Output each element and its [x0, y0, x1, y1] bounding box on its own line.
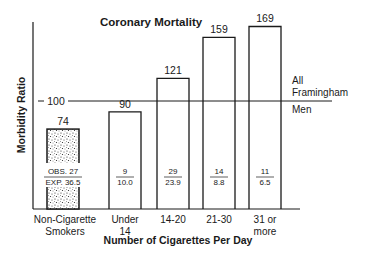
- chart-root: Coronary Mortality Morbidity Ratio Numbe…: [0, 0, 367, 255]
- observed-count: 9: [123, 167, 128, 176]
- expected-count: 10.0: [117, 178, 133, 187]
- category-label: 21-30: [206, 214, 232, 225]
- category-label: more: [254, 226, 277, 237]
- reference-annotation: Framingham: [292, 87, 348, 98]
- expected-count: 8.8: [213, 178, 225, 187]
- expected-count: 6.5: [259, 178, 271, 187]
- bar: [109, 112, 141, 209]
- bar-value-label: 90: [119, 98, 131, 110]
- observed-count: 11: [261, 167, 270, 176]
- reference-annotation: All: [292, 75, 303, 86]
- expected-count: 23.9: [165, 178, 181, 187]
- category-label: 31 or: [254, 214, 277, 225]
- y-axis-label: Morbidity Ratio: [15, 77, 27, 153]
- category-label: 14: [119, 226, 131, 237]
- expected-count: EXP. 36.5: [46, 178, 82, 187]
- category-label: Under: [111, 214, 139, 225]
- reference-value-label: 100: [47, 95, 65, 107]
- observed-count: 14: [215, 167, 224, 176]
- plot-area: 100AllFraminghamMen74OBS. 27EXP. 36.5Non…: [33, 12, 348, 237]
- bar-value-label: 121: [164, 64, 182, 76]
- category-label: 14-20: [160, 214, 186, 225]
- observed-count: 29: [169, 167, 178, 176]
- bar: [157, 78, 189, 209]
- bar-value-label: 169: [256, 12, 274, 24]
- reference-annotation: Men: [292, 104, 311, 115]
- observed-count: OBS. 27: [48, 167, 79, 176]
- chart-title: Coronary Mortality: [100, 16, 203, 28]
- bar-value-label: 74: [57, 115, 69, 127]
- bar-value-label: 159: [210, 23, 228, 35]
- category-label: Smokers: [45, 226, 84, 237]
- category-label: Non-Cigarette: [34, 214, 97, 225]
- bar-chart: Coronary Mortality Morbidity Ratio Numbe…: [0, 0, 367, 255]
